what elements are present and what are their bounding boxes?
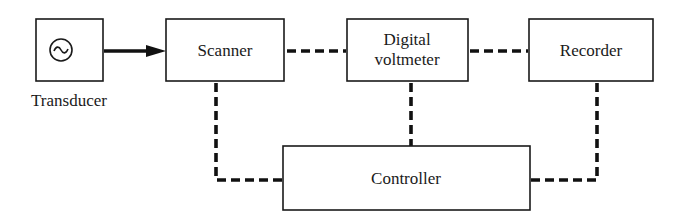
controller-label: Controller [371,169,441,188]
controller-block: Controller [283,146,530,210]
transducer-label: Transducer [31,91,107,110]
transducer-block: Transducer [31,19,107,110]
recorder-label: Recorder [560,41,623,60]
arrowhead-icon [146,45,166,57]
digital-voltmeter-block: Digital voltmeter [347,19,468,81]
recorder-to-controller-link [531,83,597,180]
scanner-block: Scanner [166,19,284,81]
block-diagram: Transducer Scanner Digital voltmeter Rec… [0,0,679,219]
voltmeter-label-line1: Digital [383,30,430,49]
recorder-block: Recorder [529,19,653,81]
scanner-label: Scanner [198,41,253,60]
voltmeter-label-line2: voltmeter [374,50,439,69]
scanner-to-controller-link [216,83,282,180]
